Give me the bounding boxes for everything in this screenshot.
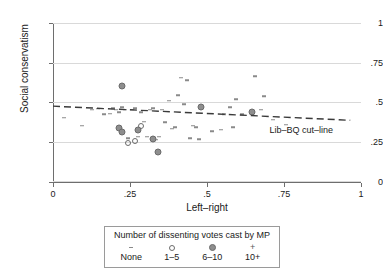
x-tick-label-2: .5	[192, 190, 222, 199]
x-tick-mark-3	[284, 183, 285, 187]
plot-area	[53, 23, 361, 182]
fit-line-segment	[53, 106, 350, 120]
filled-circle-marker-icon	[209, 243, 216, 252]
legend-title: Number of dissenting votes cast by MP	[105, 227, 279, 241]
y-axis-label: Social conservatism	[19, 0, 30, 149]
x-axis-label: Left–right	[53, 202, 361, 213]
legend-label-none: None	[120, 252, 142, 263]
legend-label-10-plus: 10+	[245, 252, 260, 263]
x-tick-label-3: .75	[269, 190, 299, 199]
legend-item-6-10[interactable]: 6–10	[193, 243, 231, 263]
legend: Number of dissenting votes cast by MP No…	[104, 226, 280, 268]
cut-line-annotation: Lib–BQ cut–line	[270, 125, 334, 135]
legend-item-none[interactable]: None	[112, 243, 150, 263]
legend-item-10-plus[interactable]: + 10+	[234, 243, 272, 263]
legend-items: None 1–5 6–10 + 10+	[105, 241, 279, 263]
x-tick-mark-4	[361, 183, 362, 187]
legend-label-6-10: 6–10	[202, 252, 222, 263]
fit-line	[53, 23, 361, 182]
legend-item-1-5[interactable]: 1–5	[153, 243, 191, 263]
x-tick-label-1: .25	[115, 190, 145, 199]
scatter-plot-figure: Social conservatism 1 .75 .5 .25 0 0 .25…	[0, 0, 383, 276]
x-tick-mark-0	[53, 183, 54, 187]
x-tick-mark-1	[130, 183, 131, 187]
legend-label-1-5: 1–5	[164, 252, 179, 263]
x-tick-label-0: 0	[38, 190, 68, 199]
plus-marker-icon: +	[250, 243, 255, 252]
open-circle-marker-icon	[169, 243, 175, 252]
x-tick-label-4: 1	[346, 190, 376, 199]
x-tick-mark-2	[207, 183, 208, 187]
dash-marker-icon	[129, 243, 133, 252]
